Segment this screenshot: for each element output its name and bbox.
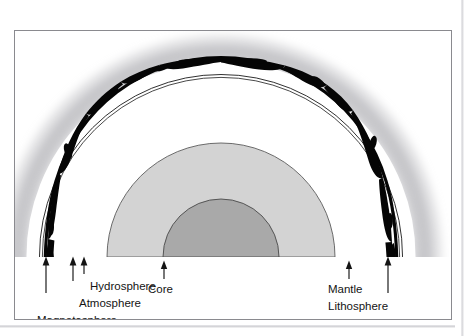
- label-hydrosphere: Hydrosphere: [90, 280, 156, 292]
- label-magnetosphere: Magnetosphere: [37, 314, 117, 319]
- earth-cross-section-diagram: Hydrosphere Atmosphere Magnetosphere Cor…: [15, 31, 451, 319]
- label-mantle: Mantle: [328, 283, 363, 295]
- running-header-text: [243, 0, 458, 4]
- scan-page-edge-bottom: [0, 325, 455, 328]
- label-lithosphere: Lithosphere: [328, 300, 388, 312]
- figure-frame: Hydrosphere Atmosphere Magnetosphere Cor…: [14, 30, 452, 320]
- label-atmosphere: Atmosphere: [79, 297, 141, 309]
- label-core: Core: [148, 283, 173, 295]
- scan-page-edge-right: [461, 0, 464, 336]
- scanned-page: Hydrosphere Atmosphere Magnetosphere Cor…: [0, 0, 467, 336]
